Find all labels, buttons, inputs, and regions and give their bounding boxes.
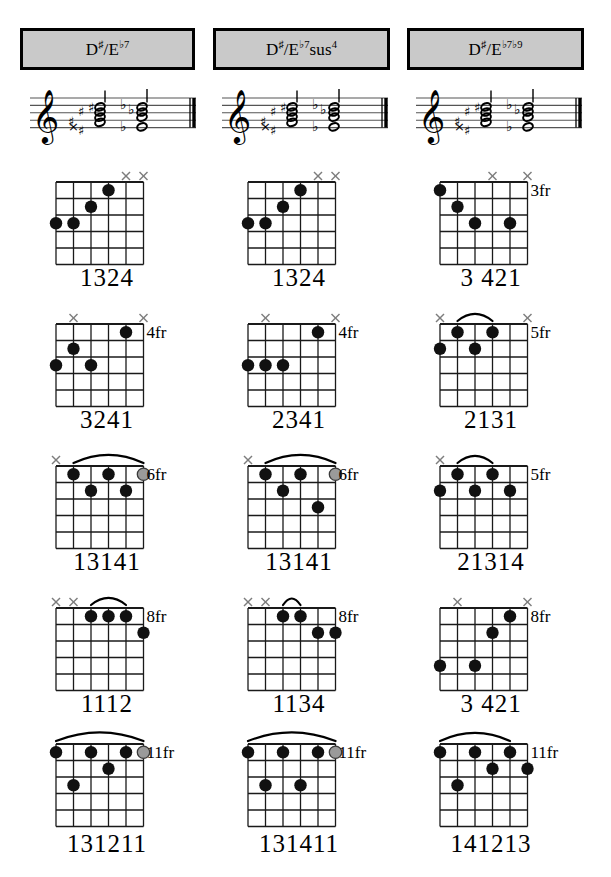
svg-text:♭: ♭ bbox=[128, 101, 135, 117]
svg-text:♯: ♯ bbox=[78, 104, 84, 119]
fretboard-diagram: 11fr bbox=[204, 722, 394, 832]
chord-title-3: D♯/E♭7♭9 bbox=[469, 38, 523, 60]
svg-text:♭: ♭ bbox=[312, 96, 319, 112]
chord-title-box-1: D♯/E♭7 bbox=[20, 28, 195, 70]
fingering-label: 131211 bbox=[12, 830, 202, 858]
fingering-label: 131411 bbox=[204, 830, 394, 858]
svg-text:8fr: 8fr bbox=[339, 607, 359, 626]
svg-text:11fr: 11fr bbox=[531, 743, 559, 762]
svg-text:♯: ♯ bbox=[280, 100, 286, 115]
fingering-label: 2131 bbox=[396, 406, 586, 434]
svg-text:♯: ♯ bbox=[270, 123, 276, 138]
svg-text:♯: ♯ bbox=[464, 123, 470, 138]
chord-diagram-eb7b9-pos3[interactable]: 5fr21314 bbox=[396, 444, 586, 554]
chord-title-box-2: D♯/E♭7sus4 bbox=[213, 28, 390, 70]
fingering-label: 1134 bbox=[204, 690, 394, 718]
chord-diagram-eb7-pos3[interactable]: 6fr13141 bbox=[12, 444, 202, 554]
chord-title-box-3: D♯/E♭7♭9 bbox=[407, 28, 584, 70]
fretboard-diagram: 8fr bbox=[204, 586, 394, 696]
chord-diagram-eb7b9-pos5[interactable]: 11fr141213 bbox=[396, 722, 586, 832]
svg-text:♭: ♭ bbox=[320, 101, 327, 117]
svg-text:𝄞: 𝄞 bbox=[224, 89, 251, 145]
fretboard-diagram: 4fr bbox=[204, 302, 394, 412]
fingering-label: 1324 bbox=[12, 264, 202, 292]
svg-text:♭: ♭ bbox=[312, 118, 319, 134]
fretboard-diagram: 8fr bbox=[396, 586, 586, 696]
fingering-label: 21314 bbox=[396, 548, 586, 576]
svg-text:♭: ♭ bbox=[120, 96, 127, 112]
fretboard-diagram: 5fr bbox=[396, 444, 586, 554]
svg-text:♯: ♯ bbox=[474, 100, 480, 115]
chord-diagram-eb7-pos2[interactable]: 4fr3241 bbox=[12, 302, 202, 412]
chord-chart-page: D♯/E♭7 D♯/E♭7sus4 D♯/E♭7♭9 𝄞♯×♯♯♯♭♭♭ 𝄞♯×… bbox=[0, 0, 611, 877]
svg-text:11fr: 11fr bbox=[147, 743, 175, 762]
fingering-label: 3 421 bbox=[396, 690, 586, 718]
svg-text:♯: ♯ bbox=[464, 104, 470, 119]
fingering-label: 141213 bbox=[396, 830, 586, 858]
svg-text:♭: ♭ bbox=[514, 101, 521, 117]
fretboard-diagram: 4fr bbox=[12, 302, 202, 412]
svg-text:♯: ♯ bbox=[270, 104, 276, 119]
svg-text:5fr: 5fr bbox=[531, 465, 551, 484]
svg-text:𝄞: 𝄞 bbox=[418, 89, 445, 145]
fingering-label: 13141 bbox=[204, 548, 394, 576]
svg-text:8fr: 8fr bbox=[531, 607, 551, 626]
fretboard-diagram: 11fr bbox=[12, 722, 202, 832]
svg-text:♯: ♯ bbox=[88, 100, 94, 115]
svg-text:8fr: 8fr bbox=[147, 607, 167, 626]
fingering-label: 3241 bbox=[12, 406, 202, 434]
chord-diagram-eb7b9-pos4[interactable]: 8fr3 421 bbox=[396, 586, 586, 696]
staff-notation-2: 𝄞♯×♯♯♯♭♭♭ bbox=[214, 84, 394, 146]
chord-diagram-eb7b9-pos1[interactable]: 3fr3 421 bbox=[396, 160, 586, 270]
svg-text:4fr: 4fr bbox=[339, 323, 359, 342]
chord-diagram-eb7sus4-pos4[interactable]: 8fr1134 bbox=[204, 586, 394, 696]
chord-title-2: D♯/E♭7sus4 bbox=[266, 38, 337, 60]
fretboard-diagram: 8fr bbox=[12, 586, 202, 696]
chord-diagram-eb7sus4-pos3[interactable]: 6fr13141 bbox=[204, 444, 394, 554]
fretboard-diagram: 6fr bbox=[204, 444, 394, 554]
svg-text:♭: ♭ bbox=[506, 96, 513, 112]
chord-title-1: D♯/E♭7 bbox=[86, 38, 130, 60]
fretboard-diagram: 6fr bbox=[12, 444, 202, 554]
svg-text:3fr: 3fr bbox=[531, 181, 551, 200]
svg-text:6fr: 6fr bbox=[339, 465, 359, 484]
svg-text:4fr: 4fr bbox=[147, 323, 167, 342]
chord-diagram-eb7-pos1[interactable]: 1324 bbox=[12, 160, 202, 270]
svg-text:5fr: 5fr bbox=[531, 323, 551, 342]
svg-text:11fr: 11fr bbox=[339, 743, 367, 762]
staff-notation-3: 𝄞♯×♯♯♯♭♭♭ bbox=[408, 84, 588, 146]
chord-diagram-eb7sus4-pos2[interactable]: 4fr2341 bbox=[204, 302, 394, 412]
svg-text:♭: ♭ bbox=[506, 118, 513, 134]
fretboard-diagram bbox=[12, 160, 202, 270]
fretboard-diagram: 3fr bbox=[396, 160, 586, 270]
staff-notation-1: 𝄞♯×♯♯♯♭♭♭ bbox=[22, 84, 202, 146]
fingering-label: 3 421 bbox=[396, 264, 586, 292]
chord-diagram-eb7-pos5[interactable]: 11fr131211 bbox=[12, 722, 202, 832]
svg-text:𝄞: 𝄞 bbox=[32, 89, 59, 145]
fingering-label: 13141 bbox=[12, 548, 202, 576]
chord-diagram-eb7b9-pos2[interactable]: 5fr2131 bbox=[396, 302, 586, 412]
chord-diagram-eb7sus4-pos5[interactable]: 11fr131411 bbox=[204, 722, 394, 832]
chord-title-row: D♯/E♭7 D♯/E♭7sus4 D♯/E♭7♭9 bbox=[0, 28, 611, 74]
svg-text:6fr: 6fr bbox=[147, 465, 167, 484]
svg-text:♯: ♯ bbox=[78, 123, 84, 138]
svg-text:♭: ♭ bbox=[120, 118, 127, 134]
fretboard-diagram bbox=[204, 160, 394, 270]
fretboard-diagram: 11fr bbox=[396, 722, 586, 832]
fretboard-diagram: 5fr bbox=[396, 302, 586, 412]
chord-diagram-eb7-pos4[interactable]: 8fr1112 bbox=[12, 586, 202, 696]
fingering-label: 1324 bbox=[204, 264, 394, 292]
fingering-label: 1112 bbox=[12, 690, 202, 718]
chord-diagram-eb7sus4-pos1[interactable]: 1324 bbox=[204, 160, 394, 270]
fingering-label: 2341 bbox=[204, 406, 394, 434]
